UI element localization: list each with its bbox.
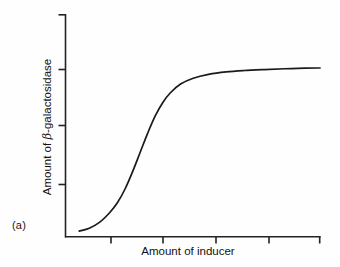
y-axis-title-suffix: -galactosidase [41,59,53,133]
panel-label: (a) [12,219,26,231]
y-axis-title-prefix: Amount of [41,140,53,196]
data-curve-sigmoid [79,68,320,231]
y-axis-title: Amount of β-galactosidase [40,17,54,237]
x-axis-title: Amount of inducer [55,245,321,257]
figure-panel: (a) Amount of inducer Amount of β-galact… [0,0,340,267]
beta-symbol: β [40,133,54,140]
